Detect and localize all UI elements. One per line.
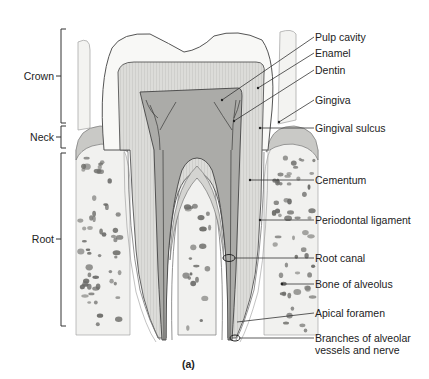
bone-pore — [283, 322, 289, 325]
bone-pore — [92, 195, 96, 201]
bone-pore — [84, 157, 90, 160]
bone-pore — [188, 276, 192, 280]
bone-pore — [190, 281, 196, 286]
bone-pore — [206, 212, 210, 216]
bone-pore — [88, 273, 92, 278]
bone-pore — [199, 244, 206, 249]
bone-pore — [77, 219, 83, 223]
label-gingiva: Gingiva — [315, 94, 351, 106]
bone-pore — [293, 289, 301, 295]
bone-pore — [99, 228, 103, 234]
bone-pore — [111, 235, 116, 238]
bone-pore — [118, 270, 122, 275]
bone-pore — [205, 266, 211, 271]
label-alveolar-vessels: Branches of alveolar vessels and nerve — [315, 332, 411, 356]
figure-caption: (a) — [182, 358, 195, 370]
bone-pore — [92, 211, 96, 217]
bone-pore — [94, 169, 102, 174]
tooth-diagram — [0, 0, 429, 379]
bone-pore — [94, 301, 98, 305]
bone-pore — [98, 254, 102, 257]
bone-pore — [116, 235, 123, 240]
bone-pore — [109, 270, 113, 273]
bone-pore — [114, 255, 117, 258]
bone-pore — [82, 227, 86, 231]
bone-pore — [307, 216, 311, 219]
bone-pore — [81, 294, 88, 297]
bone-pore — [97, 314, 103, 318]
bone-pore — [81, 164, 86, 169]
bone-pore — [292, 235, 295, 240]
bone-pore — [86, 249, 91, 251]
bone-pore — [299, 158, 302, 161]
label-bone-of-alveolus: Bone of alveolus — [315, 278, 393, 290]
label-periodontal-ligament: Periodontal ligament — [315, 214, 411, 226]
bone-pore — [308, 184, 311, 190]
bone-pore — [89, 215, 93, 220]
bone-pore — [193, 265, 199, 268]
bone-pore — [190, 244, 196, 250]
bone-pore — [309, 295, 317, 298]
bone-pore — [92, 286, 99, 290]
bone-pore — [302, 192, 307, 197]
bone-pore — [275, 236, 282, 239]
bone-pore — [88, 293, 94, 296]
bone-pore — [103, 203, 108, 206]
bone-pore — [301, 247, 307, 252]
bone-pore — [98, 163, 103, 166]
bone-pore — [192, 204, 198, 209]
bone-pore — [278, 173, 284, 177]
bone-of-alveolus-right — [264, 140, 318, 335]
bone-pore — [287, 182, 292, 185]
bone-pore — [113, 228, 118, 233]
bone-pore — [279, 273, 283, 279]
bone-pore — [115, 317, 122, 322]
crown-bracket — [61, 29, 66, 123]
bone-pore — [189, 257, 192, 260]
bone-pore — [115, 296, 120, 299]
bone-pore — [116, 212, 121, 216]
bone-pore — [114, 282, 117, 286]
bone-pore — [278, 213, 282, 217]
bone-pore — [186, 325, 189, 331]
bone-pore — [307, 272, 312, 277]
bone-pore — [287, 198, 292, 204]
label-enamel: Enamel — [315, 47, 351, 59]
label-root-canal: Root canal — [315, 252, 365, 264]
adjacent-tooth-right — [278, 30, 296, 124]
bone-pore — [295, 217, 301, 220]
bone-pore — [308, 208, 315, 213]
bone-pore — [108, 178, 112, 183]
bone-pore — [200, 319, 203, 322]
bone-pore — [284, 175, 290, 178]
bone-pore — [287, 210, 294, 214]
adjacent-tooth-left — [78, 40, 90, 130]
label-root: Root — [4, 233, 54, 245]
label-dentin: Dentin — [315, 64, 345, 76]
bone-pore — [283, 155, 288, 160]
bone-pore — [274, 200, 279, 205]
bone-of-alveolus-left — [76, 140, 130, 335]
bone-pore — [291, 161, 297, 166]
label-cementum: Cementum — [315, 174, 366, 186]
bone-pore — [302, 230, 309, 235]
root-bracket — [61, 153, 66, 326]
bone-pore — [291, 306, 295, 310]
bone-pore — [311, 265, 315, 268]
bone-pore — [77, 249, 84, 255]
bone-pore — [113, 250, 121, 255]
bone-pore — [81, 168, 85, 172]
bone-pore — [82, 240, 87, 242]
bone-pore — [195, 277, 199, 283]
label-apical-foramen: Apical foramen — [315, 307, 385, 319]
region-brackets — [56, 29, 66, 326]
bone-pore — [87, 252, 92, 255]
bone-pore — [87, 226, 93, 230]
bone-pore — [199, 227, 207, 232]
label-alveolar-vessels-line2: vessels and nerve — [315, 344, 411, 356]
label-gingival-sulcus: Gingival sulcus — [315, 122, 386, 134]
bone-pore — [304, 286, 310, 291]
bone-pore — [309, 172, 314, 175]
neck-bracket — [61, 126, 66, 148]
bone-pore — [190, 272, 193, 275]
